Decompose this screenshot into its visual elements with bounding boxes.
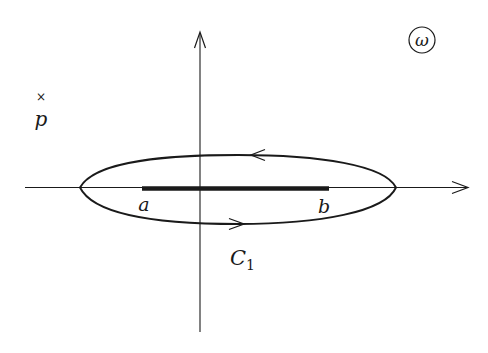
contour-diagram: × p a b C1 ω [0,0,488,353]
plane-label-text: ω [415,30,429,50]
contour-label: C1 [230,246,255,273]
imaginary-axis [195,32,206,332]
cut-end-label: b [318,195,330,217]
plane-label: ω [409,27,435,53]
pole-marker-icon: × [36,90,46,104]
cut-start-label: a [138,193,149,215]
pole-label: p [35,107,48,131]
